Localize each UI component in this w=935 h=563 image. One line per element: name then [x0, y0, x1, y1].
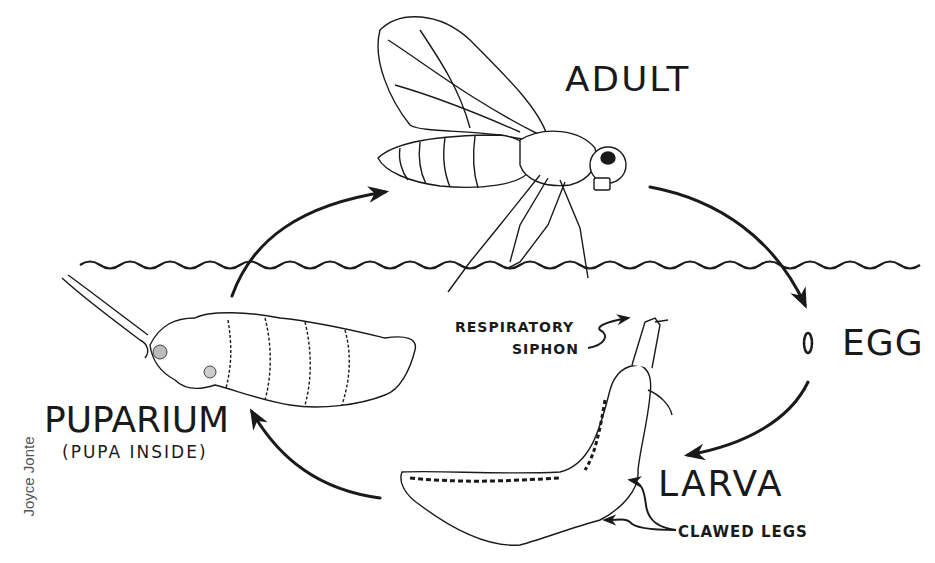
label-respiratory: RESPIRATORY [455, 320, 574, 334]
life-cycle-diagram: ADULT EGG LARVA PUPARIUM (PUPA INSIDE) R… [0, 0, 935, 563]
water-surface [80, 262, 920, 269]
arrow-egg-to-larva [688, 382, 808, 455]
artist-credit: Joyce Jonte [20, 427, 37, 527]
siphon-pointer [588, 318, 628, 348]
arrow-puparium-to-adult [232, 192, 385, 296]
arrow-larva-to-puparium [252, 412, 380, 498]
label-siphon: SIPHON [512, 342, 579, 356]
label-puparium-sublabel: (PUPA INSIDE) [62, 444, 208, 461]
label-adult: ADULT [565, 62, 690, 96]
diagram-artwork [0, 0, 935, 563]
label-puparium: PUPARIUM [44, 402, 229, 438]
arrow-adult-to-egg [650, 187, 805, 305]
egg-illustration [804, 333, 812, 353]
puparium-illustration [62, 275, 415, 407]
label-egg: EGG [842, 325, 924, 361]
label-clawed-legs: CLAWED LEGS [678, 525, 808, 540]
label-larva: LARVA [658, 466, 784, 502]
adult-fly-illustration [378, 17, 626, 292]
